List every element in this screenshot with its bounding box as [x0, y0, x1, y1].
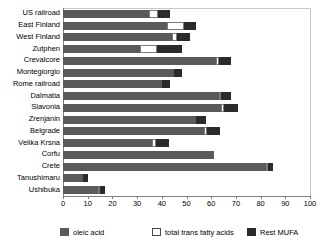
bar-segment-oleic-acid [63, 127, 204, 135]
bar-segment-rest-mufa [100, 186, 105, 194]
bar-row [0, 92, 324, 100]
bar-segment-oleic-acid [63, 139, 152, 147]
bar-segment-oleic-acid [63, 80, 162, 88]
bar-segment-rest-mufa [158, 10, 170, 18]
bar-row [0, 116, 324, 124]
bar-row [0, 33, 324, 41]
x-axis-tick-label: 70 [226, 200, 246, 208]
bar-segment-total-trans-fatty-acids [140, 45, 157, 53]
legend-label: oleic acid [73, 228, 104, 237]
bar-segment-total-trans-fatty-acids [167, 22, 184, 30]
legend-item: Rest MUFA [247, 228, 298, 239]
bar-segment-rest-mufa [157, 45, 182, 53]
chart-legend: oleic acidtotal trans fatty acidsRest MU… [0, 228, 324, 242]
legend-label: Rest MUFA [260, 228, 298, 237]
bar-row [0, 186, 324, 194]
x-axis-tick-label: 20 [102, 200, 122, 208]
legend-item: total trans fatty acids [152, 228, 234, 239]
bar-segment-rest-mufa [156, 139, 170, 147]
bar-segment-total-trans-fatty-acids [149, 10, 158, 18]
bar-segment-rest-mufa [268, 163, 273, 171]
bar-row [0, 163, 324, 171]
bar-row [0, 104, 324, 112]
bar-row [0, 139, 324, 147]
bar-row [0, 10, 324, 18]
x-axis-tick-label: 40 [152, 200, 172, 208]
bar-row [0, 80, 324, 88]
bar-segment-oleic-acid [63, 163, 266, 171]
x-axis-tick-label: 60 [201, 200, 221, 208]
bar-segment-oleic-acid [63, 174, 83, 182]
bar-row [0, 22, 324, 30]
bar-row [0, 45, 324, 53]
bar-row [0, 127, 324, 135]
legend-label: total trans fatty acids [165, 228, 234, 237]
bar-segment-rest-mufa [196, 116, 206, 124]
bar-segment-oleic-acid [63, 186, 98, 194]
x-axis-tick-label: 80 [251, 200, 271, 208]
bar-row [0, 57, 324, 65]
bar-segment-rest-mufa [162, 80, 171, 88]
bar-segment-rest-mufa [184, 22, 196, 30]
bar-segment-oleic-acid [63, 57, 216, 65]
bar-segment-oleic-acid [63, 69, 174, 77]
x-axis-tick-label: 10 [78, 200, 98, 208]
bar-segment-oleic-acid [63, 151, 214, 159]
bar-segment-rest-mufa [219, 57, 231, 65]
x-axis-tick-label: 30 [127, 200, 147, 208]
legend-swatch-trans [152, 228, 161, 236]
bar-segment-oleic-acid [63, 45, 140, 53]
bar-row [0, 69, 324, 77]
bar-row [0, 174, 324, 182]
bar-segment-oleic-acid [63, 22, 167, 30]
bar-row [0, 151, 324, 159]
bar-segment-oleic-acid [63, 116, 196, 124]
x-axis-tick-label: 0 [53, 200, 73, 208]
bar-segment-oleic-acid [63, 104, 221, 112]
x-axis-tick-label: 100 [300, 200, 320, 208]
legend-swatch-oleic [60, 228, 69, 236]
bar-segment-rest-mufa [207, 127, 219, 135]
bar-segment-oleic-acid [63, 33, 172, 41]
bar-segment-rest-mufa [221, 92, 231, 100]
bar-segment-rest-mufa [174, 69, 181, 77]
bar-segment-rest-mufa [177, 33, 191, 41]
stacked-bar-chart: US railroadEast FinlandWest FinlandZutph… [0, 0, 324, 249]
x-axis-tick-label: 90 [275, 200, 295, 208]
bar-segment-oleic-acid [63, 10, 149, 18]
bar-segment-rest-mufa [224, 104, 239, 112]
bar-segment-oleic-acid [63, 92, 219, 100]
x-axis-tick-label: 50 [177, 200, 197, 208]
legend-swatch-rest [247, 228, 256, 236]
legend-item: oleic acid [60, 228, 104, 239]
bar-segment-rest-mufa [83, 174, 88, 182]
